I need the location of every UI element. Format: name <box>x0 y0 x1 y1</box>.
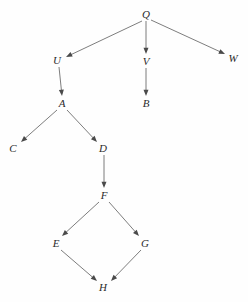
arrowhead-v-to-b-icon <box>144 90 149 96</box>
edge-u-to-a <box>59 67 62 91</box>
edge-f-to-e <box>65 202 99 233</box>
node-label-u: U <box>53 55 61 66</box>
edge-a-to-c <box>25 110 57 139</box>
edge-e-to-h <box>61 250 93 278</box>
node-label-c: C <box>9 143 16 154</box>
edge-g-to-h <box>114 250 141 278</box>
arrowhead-q-to-v-icon <box>144 48 149 54</box>
node-label-w: W <box>228 53 237 64</box>
arrowhead-u-to-a-icon <box>59 90 64 96</box>
node-label-h: H <box>99 282 107 293</box>
edge-f-to-g <box>109 202 136 232</box>
edge-q-to-u <box>70 21 142 55</box>
graph-edges-layer <box>0 0 248 302</box>
edge-q-to-w <box>151 20 221 52</box>
node-label-q: Q <box>142 9 150 20</box>
node-label-a: A <box>59 98 66 109</box>
arrowhead-q-to-u-icon <box>66 52 73 57</box>
edge-a-to-d <box>67 110 94 139</box>
node-label-b: B <box>143 98 150 109</box>
node-label-f: F <box>101 190 108 201</box>
arrowhead-q-to-w-icon <box>218 49 225 54</box>
graph-diagram: QUVWABCDFEGH <box>0 0 248 302</box>
node-label-g: G <box>141 238 149 249</box>
node-label-v: V <box>143 56 150 67</box>
node-label-d: D <box>99 143 107 154</box>
node-label-e: E <box>53 238 60 249</box>
arrowhead-d-to-f-icon <box>102 182 107 188</box>
